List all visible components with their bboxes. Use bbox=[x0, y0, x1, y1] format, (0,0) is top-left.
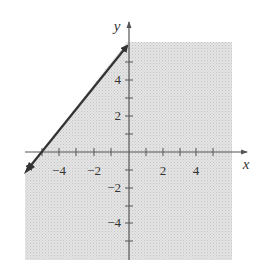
coordinate-plane: −4 −2 2 4 4 2 −2 −4 x y bbox=[0, 0, 260, 266]
y-tick-label: −2 bbox=[107, 180, 121, 195]
y-axis-label: y bbox=[112, 18, 121, 34]
x-tick-label: −2 bbox=[87, 163, 101, 178]
y-tick-label: 2 bbox=[115, 108, 122, 123]
x-tick-label: 4 bbox=[193, 163, 200, 178]
y-tick-label: −4 bbox=[107, 215, 121, 230]
x-tick-label: −4 bbox=[52, 163, 66, 178]
x-tick-label: 2 bbox=[160, 163, 167, 178]
x-axis-label: x bbox=[242, 156, 250, 172]
y-tick-label: 4 bbox=[115, 72, 122, 87]
